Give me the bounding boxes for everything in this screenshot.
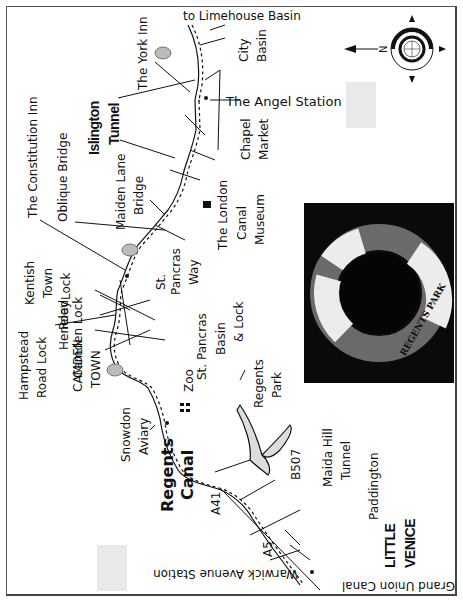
label-hampstead-1: Hampstead xyxy=(18,331,30,400)
label-snowdon-2: Aviary xyxy=(138,418,150,455)
label-kentish-1: Kentish xyxy=(24,261,36,305)
warwick-dot xyxy=(310,570,314,574)
label-st-pancras-basin-3: & Lock xyxy=(233,301,245,342)
label-heneley-3: Lock xyxy=(60,273,72,300)
label-islington-1: Islington xyxy=(87,101,101,155)
label-oblique-bridge: Oblique Bridge xyxy=(57,133,69,222)
compass-n-label: N xyxy=(378,46,389,53)
regents-park-lake xyxy=(237,405,291,475)
label-city-basin-2: Basin xyxy=(256,29,268,62)
label-chapel-1: Chapel xyxy=(240,118,252,160)
label-st-pancras-way-3: Way xyxy=(188,259,200,285)
label-london-canal-3: Museum xyxy=(254,194,266,245)
label-chapel-2: Market xyxy=(258,119,270,160)
label-constitution-inn: The Constitution Inn xyxy=(27,96,39,218)
angel-dot xyxy=(204,96,208,100)
label-regents-canal-1: Regents xyxy=(160,438,176,512)
label-heneley-2: Road xyxy=(58,300,70,330)
label-little-venice-2: VENICE xyxy=(403,519,417,568)
label-little-venice-1: LITTLE xyxy=(383,524,397,568)
label-zoo: Zoo xyxy=(183,369,195,392)
label-angel-station: The Angel Station xyxy=(226,95,342,108)
label-b507: B507 xyxy=(290,449,302,480)
canal-museum-marker xyxy=(203,201,211,208)
snowdon-dot xyxy=(165,421,169,425)
label-maiden-2: Bridge xyxy=(133,176,145,215)
label-islington-2: Tunnel xyxy=(107,103,121,145)
compass-icon xyxy=(344,15,446,83)
label-limehouse: to Limehouse Basin xyxy=(183,10,301,22)
label-kentish-2: Town xyxy=(42,268,54,298)
label-london-canal-2: Canal xyxy=(236,206,248,240)
label-maida-1: Maida Hill xyxy=(322,428,334,487)
label-st-pancras-basin-2: Basin xyxy=(215,322,227,355)
label-grand-union: Grand Union Canal xyxy=(342,580,455,592)
zoo-marker xyxy=(180,403,190,412)
label-maiden-1: Maiden Lane xyxy=(115,154,127,231)
label-maida-2: Tunnel xyxy=(340,441,352,480)
label-regents-canal-2: Canal xyxy=(180,450,196,500)
label-warwick-avenue: Warwick Avenue Station xyxy=(153,568,298,580)
label-a41: A41 xyxy=(210,492,222,515)
label-paddington: Paddington xyxy=(368,453,380,521)
label-st-pancras-way-2: Pancras xyxy=(170,248,182,295)
constitution-dot xyxy=(125,274,129,278)
label-regents-park-2: Park xyxy=(271,372,283,398)
label-camden-2: TOWN xyxy=(90,350,102,388)
label-city-basin-1: City xyxy=(238,38,250,62)
label-st-pancras-way-1: St. xyxy=(155,274,167,290)
label-st-pancras-basin-1: St. Pancras xyxy=(196,313,208,380)
label-snowdon-1: Snowdon xyxy=(120,407,132,462)
label-london-canal-1: The London xyxy=(217,180,229,250)
label-york-inn: The York Inn xyxy=(137,16,149,90)
station-icon-angel xyxy=(346,82,376,128)
label-hampstead-2: Road Lock xyxy=(36,337,48,398)
canal-route xyxy=(110,25,304,585)
station-icon-warwick xyxy=(97,545,127,591)
lifebuoy-photo: REGENTS PARK xyxy=(304,203,454,383)
roads xyxy=(95,25,320,590)
label-camden-1: CAMDEN xyxy=(72,339,84,392)
label-a5: A5 xyxy=(262,541,274,557)
label-regents-park-1b: Regents xyxy=(253,359,265,408)
